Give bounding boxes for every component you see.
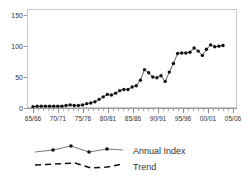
x-tick-1982 xyxy=(118,109,119,111)
x-tick-label-6: 95/96 xyxy=(175,115,191,123)
x-tick-1990 xyxy=(158,109,159,113)
x-tick-label-4: 85/86 xyxy=(125,115,141,123)
x-tick-label-5: 90/91 xyxy=(150,115,166,123)
x-tick-1995 xyxy=(183,109,184,113)
legend-item-annual-index: Annual Index xyxy=(33,143,238,159)
annual-index-line xyxy=(33,45,223,107)
x-tick-2000 xyxy=(208,109,209,113)
chart-container: 150 100 50 0 65/66 70/71 75/76 80/81 85/… xyxy=(0,0,247,177)
x-tick-1971 xyxy=(63,109,64,111)
x-tick-1968 xyxy=(48,109,49,111)
x-tick-1999 xyxy=(203,109,204,111)
y-tick-label-100: 100 xyxy=(11,43,23,50)
x-tick-label-3: 80/81 xyxy=(100,115,116,123)
x-tick-1969 xyxy=(53,109,54,111)
legend-label-annual-index: Annual Index xyxy=(133,145,186,157)
x-tick-1972 xyxy=(68,109,69,111)
legend-label-trend: Trend xyxy=(133,161,156,173)
legend-sample-annual-index xyxy=(33,143,125,159)
x-tick-1981 xyxy=(113,109,114,111)
x-tick-1974 xyxy=(78,109,79,111)
x-tick-1984 xyxy=(128,109,129,111)
y-tick-label-150: 150 xyxy=(11,12,23,19)
annual-index-markers xyxy=(31,43,224,108)
x-tick-1989 xyxy=(153,109,154,111)
x-tick-1994 xyxy=(178,109,179,111)
x-tick-1986 xyxy=(138,109,139,111)
x-tick-1988 xyxy=(148,109,149,111)
x-tick-1975 xyxy=(83,109,84,113)
x-tick-label-8: 05/06 xyxy=(225,115,241,123)
x-axis: 65/66 70/71 75/76 80/81 85/86 90/91 95/9… xyxy=(27,108,239,138)
x-tick-label-0: 65/66 xyxy=(25,115,41,123)
x-tick-1987 xyxy=(143,109,144,111)
x-tick-1966 xyxy=(38,109,39,111)
x-tick-2004 xyxy=(228,109,229,111)
x-tick-label-2: 75/76 xyxy=(75,115,91,123)
x-tick-1985 xyxy=(133,109,134,113)
x-tick-1991 xyxy=(163,109,164,111)
x-tick-1978 xyxy=(98,109,99,111)
x-tick-1997 xyxy=(193,109,194,111)
x-tick-2001 xyxy=(213,109,214,111)
x-tick-1992 xyxy=(168,109,169,111)
x-tick-2005 xyxy=(233,109,234,113)
x-tick-1998 xyxy=(198,109,199,111)
x-tick-label-7: 00/01 xyxy=(200,115,216,123)
chart-legend: Annual Index Trend xyxy=(33,143,238,177)
x-tick-1976 xyxy=(88,109,89,111)
x-tick-1980 xyxy=(108,109,109,113)
x-tick-1979 xyxy=(103,109,104,111)
x-tick-1996 xyxy=(188,109,189,111)
y-tick-label-0: 0 xyxy=(19,105,23,112)
x-tick-1977 xyxy=(93,109,94,111)
x-tick-2002 xyxy=(218,109,219,111)
x-tick-1965 xyxy=(33,109,34,113)
legend-item-trend: Trend xyxy=(33,159,238,175)
legend-sample-trend xyxy=(33,159,125,175)
x-tick-1983 xyxy=(123,109,124,111)
x-tick-1967 xyxy=(43,109,44,111)
x-tick-1970 xyxy=(58,109,59,113)
plot-area xyxy=(27,9,237,108)
y-axis: 150 100 50 0 xyxy=(0,0,27,118)
x-tick-1973 xyxy=(73,109,74,111)
y-tick-label-50: 50 xyxy=(15,74,23,81)
x-tick-label-1: 70/71 xyxy=(50,115,66,123)
x-tick-2003 xyxy=(223,109,224,111)
x-tick-1993 xyxy=(173,109,174,111)
